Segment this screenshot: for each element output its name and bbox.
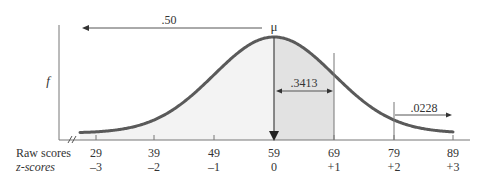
- raw-score-label: 59: [268, 146, 280, 160]
- annotation-half: .50: [162, 13, 177, 27]
- normal-distribution-chart: μ .50 .3413 .0228 f Raw scores z-scores …: [0, 0, 481, 181]
- z-score-label: 0: [271, 160, 277, 174]
- annotation-3413: .3413: [291, 76, 318, 90]
- z-score-tick-labels: –3–2–10+1+2+3: [89, 160, 459, 174]
- z-score-label: +1: [328, 160, 341, 174]
- z-score-label: –3: [89, 160, 102, 174]
- z-score-label: –2: [147, 160, 160, 174]
- raw-scores-label: Raw scores: [16, 146, 71, 160]
- mean-label: μ: [271, 19, 278, 34]
- z-score-label: +2: [388, 160, 401, 174]
- arrow-left-icon: [82, 25, 89, 31]
- z-score-label: –1: [207, 160, 220, 174]
- z-score-label: +3: [447, 160, 460, 174]
- raw-score-tick-labels: 29394959697989: [90, 146, 459, 160]
- raw-score-label: 29: [90, 146, 102, 160]
- raw-score-label: 89: [447, 146, 459, 160]
- raw-score-label: 79: [388, 146, 400, 160]
- z-scores-label: z-scores: [15, 160, 55, 174]
- y-axis-label: f: [46, 73, 52, 88]
- shaded-area-left-of-mean: [80, 37, 274, 140]
- raw-score-label: 69: [328, 146, 340, 160]
- raw-score-label: 49: [208, 146, 220, 160]
- raw-score-label: 39: [148, 146, 160, 160]
- annotation-0228: .0228: [411, 101, 438, 115]
- arrow-right-icon: [446, 113, 452, 118]
